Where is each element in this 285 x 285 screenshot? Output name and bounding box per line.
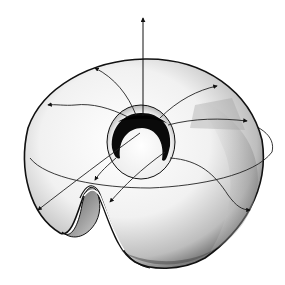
torus-diagram xyxy=(0,0,285,285)
inner-hole xyxy=(107,105,175,179)
